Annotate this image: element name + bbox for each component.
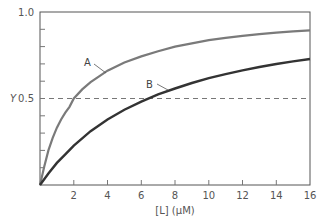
y-tick-label-0-5: 0.5 [18,93,34,104]
curve-b [40,59,310,185]
curve-b-leader [157,84,168,90]
curve-a-leader [94,64,106,73]
curve-b-label: B [146,79,153,90]
x-tick-label: 2 [71,190,77,201]
x-tick-label: 10 [202,190,215,201]
x-tick-label: 4 [104,190,110,201]
curve-a [40,30,310,185]
x-tick-label: 14 [270,190,283,201]
y-tick-label-1: 1.0 [18,7,34,18]
x-tick-label: 12 [236,190,249,201]
y-axis-label: Y [10,93,17,104]
x-tick-label: 6 [138,190,144,201]
curve-a-label: A [84,57,91,68]
x-axis-label: [L] (μM) [155,205,194,216]
x-tick-label: 8 [172,190,178,201]
binding-curve-chart: A B 1.0 0.5 Y 2 4 6 8 10 12 14 16 [L] (μ… [0,0,317,220]
x-ticks [74,180,276,185]
x-tick-label: 16 [304,190,317,201]
